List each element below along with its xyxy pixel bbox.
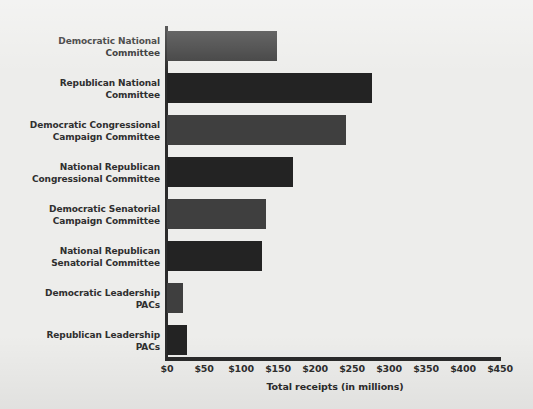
bar [167,115,346,145]
bar-row: National RepublicanCongressional Committ… [0,152,533,194]
bar-category-label-line1: Republican National [10,78,160,90]
bar [167,241,262,271]
bar [167,283,183,313]
bar-category-label-line2: PACs [10,341,160,353]
bar-category-label-line1: National Republican [10,162,160,174]
bar-category-label-line1: Democratic Senatorial [10,204,160,216]
bar-category-label-line2: Campaign Committee [10,215,160,227]
bar-row: Republican LeadershipPACs [0,320,533,362]
bar-row: National RepublicanSenatorial Committee [0,236,533,278]
bar [167,73,372,103]
bar [167,157,293,187]
bar-row: Democratic CongressionalCampaign Committ… [0,110,533,152]
bar-category-label-line1: Democratic Leadership [10,288,160,300]
bar-category-label-line1: National Republican [10,246,160,258]
bar-category-label-line2: Campaign Committee [10,131,160,143]
bar-row: Republican NationalCommittee [0,68,533,110]
bar-category-label: Democratic CongressionalCampaign Committ… [10,120,160,143]
bar-category-label: Republican LeadershipPACs [10,330,160,353]
x-axis-line [165,357,501,361]
bar [167,31,277,61]
bar [167,199,266,229]
bar-row: Democratic SenatorialCampaign Committee [0,194,533,236]
x-axis-title: Total receipts (in millions) [167,381,503,392]
bar-row: Democratic LeadershipPACs [0,278,533,320]
bar-category-label: Democratic NationalCommittee [10,36,160,59]
bar-category-label: Democratic LeadershipPACs [10,288,160,311]
bar-category-label-line1: Democratic National [10,36,160,48]
bar-category-label-line1: Democratic Congressional [10,120,160,132]
bar-category-label: National RepublicanCongressional Committ… [10,162,160,185]
x-tick-label: $450 [477,363,523,374]
bar-category-label-line2: Congressional Committee [10,173,160,185]
bar-category-label-line2: PACs [10,299,160,311]
bar [167,325,187,355]
bar-category-label: Democratic SenatorialCampaign Committee [10,204,160,227]
bar-category-label-line2: Committee [10,89,160,101]
bar-category-label: Republican NationalCommittee [10,78,160,101]
bar-category-label: National RepublicanSenatorial Committee [10,246,160,269]
bar-chart: Democratic NationalCommitteeRepublican N… [0,0,533,409]
bar-category-label-line2: Senatorial Committee [10,257,160,269]
bar-row: Democratic NationalCommittee [0,26,533,68]
bar-category-label-line2: Committee [10,47,160,59]
bar-category-label-line1: Republican Leadership [10,330,160,342]
